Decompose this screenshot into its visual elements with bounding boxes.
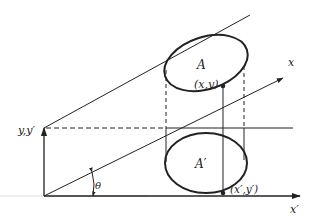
point-xy-label: (x,y): [194, 78, 219, 91]
x-axis: [44, 78, 283, 196]
point-xy: [221, 84, 226, 89]
theta-label: θ: [95, 180, 101, 191]
point-x-prime-y-prime-label: (x′,y′): [230, 183, 258, 195]
x-prime-axis-label: x′: [290, 203, 299, 216]
theta-arc: [92, 172, 94, 196]
area-a-prime-label: A′: [194, 157, 207, 171]
y-axis-label: y,y′: [17, 124, 35, 137]
x-axis-label: x: [288, 56, 295, 69]
area-a-label: A: [196, 58, 206, 72]
projection-diagram: y,y′ x x′ θ A A′ (x,y) (x′,y′): [0, 0, 316, 223]
inclined-plane-edge: [44, 15, 250, 128]
point-x-prime-y-prime: [221, 191, 226, 196]
